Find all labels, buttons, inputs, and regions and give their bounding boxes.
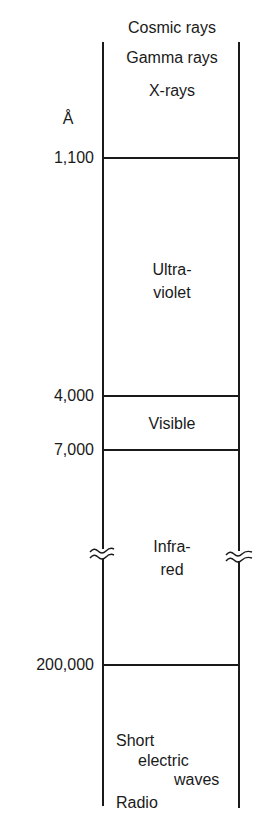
axis-break-icon-right	[224, 546, 254, 566]
label-infrared-line1: Infra-	[104, 535, 240, 558]
label-cosmic-rays: Cosmic rays	[104, 16, 240, 39]
tick-label-1100: 1,100	[0, 149, 94, 167]
label-x-rays: X-rays	[104, 79, 240, 102]
unit-angstrom: Å	[58, 110, 78, 128]
axis-break-icon-left	[88, 544, 118, 564]
label-infrared-line2: red	[104, 558, 240, 581]
label-ultraviolet-line1: Ultra-	[104, 258, 240, 281]
label-ultraviolet-line2: violet	[104, 281, 240, 304]
tick-label-7000: 7,000	[0, 441, 94, 459]
boundary-line-1100	[103, 157, 239, 159]
label-waves: waves	[174, 771, 219, 789]
label-electric: electric	[138, 752, 189, 770]
tick-label-4000: 4,000	[0, 387, 94, 405]
boundary-line-4000	[103, 395, 239, 397]
label-short: Short	[116, 732, 154, 750]
boundary-line-7000	[103, 449, 239, 451]
boundary-line-200000	[103, 664, 239, 666]
label-gamma-rays: Gamma rays	[104, 46, 240, 69]
label-radio: Radio	[116, 794, 158, 812]
label-visible: Visible	[104, 412, 240, 435]
tick-label-200000: 200,000	[0, 656, 94, 674]
